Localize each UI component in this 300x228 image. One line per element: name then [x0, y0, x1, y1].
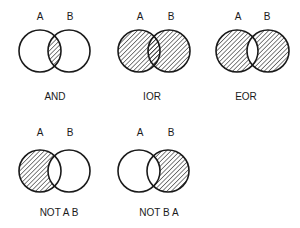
- set-label-a: A: [235, 12, 242, 22]
- operation-caption-not-b-a: NOT B A: [139, 208, 178, 218]
- venn-panel-ior: [118, 30, 190, 72]
- operation-caption-eor: EOR: [235, 92, 257, 102]
- set-label-a: A: [37, 128, 44, 138]
- set-label-b: B: [168, 128, 175, 138]
- set-label-a: A: [137, 128, 144, 138]
- set-label-b: B: [264, 12, 271, 22]
- venn-diagram-canvas: [0, 0, 300, 228]
- set-label-b: B: [67, 128, 74, 138]
- set-label-a: A: [37, 12, 44, 22]
- venn-panel-and: [19, 30, 90, 72]
- set-label-b: B: [168, 12, 175, 22]
- set-label-a: A: [137, 12, 144, 22]
- operation-caption-and: AND: [44, 92, 65, 102]
- venn-panel-not-b-a: [118, 150, 189, 192]
- venn-panel-not-a-b: [19, 150, 90, 192]
- operation-caption-not-a-b: NOT A B: [40, 208, 79, 218]
- venn-panel-eor: [216, 30, 289, 72]
- set-label-b: B: [67, 12, 74, 22]
- operation-caption-ior: IOR: [143, 92, 161, 102]
